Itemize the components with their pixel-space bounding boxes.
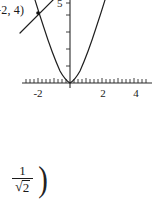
point-annotation-label: -2, 4): [0, 3, 24, 17]
x-axis-ticks: [26, 78, 146, 83]
fraction-denominator: √ 2: [12, 179, 33, 195]
point-marker: [36, 11, 40, 15]
math-expression-area: 1 √ 2 ): [0, 160, 162, 220]
radicand-value: 2: [22, 180, 31, 195]
coordinate-plane: -2 2 4: [0, 0, 162, 110]
square-root-icon: √ 2: [15, 180, 30, 195]
x-tick-label-2: 2: [100, 87, 106, 99]
y-axis-top-label: 5: [57, 0, 63, 9]
fraction-expression: 1 √ 2 ): [12, 164, 49, 195]
tangent-line: [20, 0, 55, 33]
graph-figure: -2 2 4 -2, 4) 5: [0, 0, 162, 110]
fraction-numerator: 1: [16, 164, 29, 178]
y-axis-ticks: [66, 3, 70, 66]
closing-parenthesis: ): [38, 164, 48, 195]
x-tick-label-4: 4: [133, 87, 139, 99]
x-tick-label-minus2: -2: [33, 87, 42, 99]
fraction: 1 √ 2: [12, 164, 33, 195]
